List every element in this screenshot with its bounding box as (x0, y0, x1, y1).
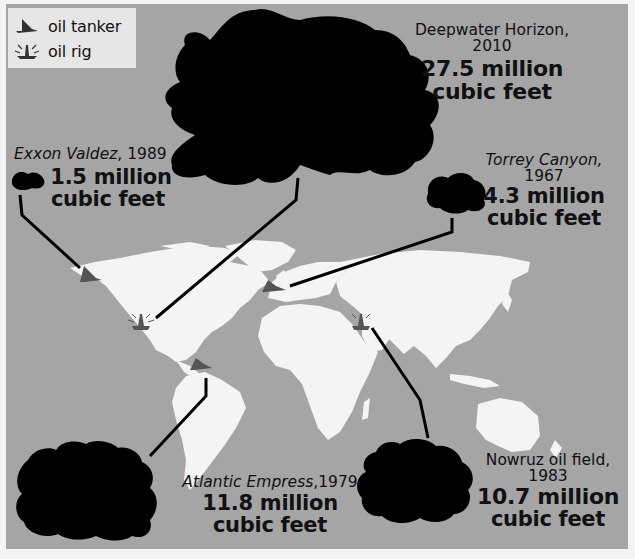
nowruz-spill-blob (357, 439, 473, 523)
deepwater-title: Deepwater Horizon, 2010 (402, 22, 582, 55)
legend: oil tanker oil rig (8, 8, 136, 68)
deepwater-unit: cubic feet (402, 80, 582, 103)
torrey-amount: 4.3 million (474, 185, 614, 207)
nowruz-year: 1983 (466, 468, 628, 484)
torrey-unit: cubic feet (474, 207, 614, 229)
atlantic-title: Atlantic Empress,1979 (172, 474, 368, 490)
exxon-year: , 1989 (117, 145, 166, 163)
legend-item-oil-rig: oil rig (14, 39, 92, 63)
oil-tanker-icon (14, 17, 40, 35)
australia (476, 398, 540, 452)
atlantic-unit: cubic feet (172, 514, 368, 536)
legend-item-oil-tanker: oil tanker (14, 14, 121, 38)
deepwater-spill-blob (165, 9, 438, 185)
exxon-title: Exxon Valdez, 1989 (14, 146, 184, 162)
exxon-label: Exxon Valdez, 1989 1.5 million cubic fee… (14, 146, 184, 210)
legend-label-oil-rig: oil rig (48, 42, 92, 61)
infographic-panel: oil tanker oil rig Deepwater Horizon, 20… (6, 4, 628, 549)
nowruz-unit: cubic feet (466, 508, 628, 530)
torrey-year: 1967 (474, 168, 614, 184)
atlantic-tanker-icon (190, 358, 212, 370)
deepwater-label: Deepwater Horizon, 2010 27.5 million cub… (402, 22, 582, 103)
atlantic-name: Atlantic Empress (182, 473, 313, 491)
oil-rig-icon (14, 42, 40, 60)
exxon-name: Exxon Valdez (14, 145, 117, 163)
torrey-title: Torrey Canyon, (474, 152, 614, 168)
atlantic-amount: 11.8 million (172, 492, 368, 514)
nowruz-label: Nowruz oil field, 1983 10.7 million cubi… (466, 452, 628, 530)
exxon-unit: cubic feet (32, 188, 184, 210)
indonesia (450, 374, 500, 388)
nowruz-amount: 10.7 million (466, 485, 628, 508)
atlantic-label: Atlantic Empress,1979 11.8 million cubic… (172, 474, 368, 536)
atlantic-spill-blob (16, 441, 157, 541)
legend-label-oil-tanker: oil tanker (48, 17, 121, 36)
nowruz-title: Nowruz oil field, (466, 452, 628, 468)
deepwater-amount: 27.5 million (402, 57, 582, 80)
exxon-amount: 1.5 million (38, 166, 184, 188)
atlantic-year: ,1979 (313, 473, 357, 491)
torrey-label: Torrey Canyon, 1967 4.3 million cubic fe… (474, 152, 614, 229)
north-america (70, 246, 270, 362)
